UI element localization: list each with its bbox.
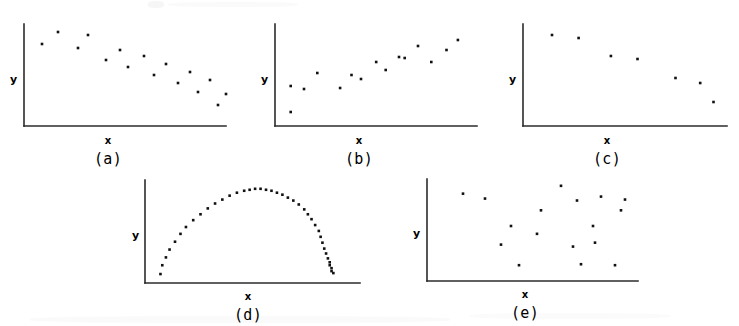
data-point bbox=[87, 34, 90, 37]
data-point bbox=[77, 47, 80, 50]
data-point bbox=[270, 189, 273, 192]
data-point bbox=[712, 101, 715, 104]
data-point bbox=[560, 185, 563, 188]
data-points bbox=[462, 185, 627, 267]
panel-a-x-axis-label: x bbox=[98, 136, 118, 146]
panel-a: y x (a) bbox=[0, 10, 240, 165]
data-point bbox=[292, 199, 295, 202]
data-point bbox=[41, 43, 44, 46]
data-point bbox=[360, 78, 363, 81]
data-point bbox=[318, 230, 321, 233]
panel-d-plot bbox=[130, 168, 380, 293]
data-point bbox=[174, 240, 177, 243]
data-point bbox=[281, 193, 284, 196]
data-point bbox=[580, 263, 583, 266]
panel-d-caption: (d) bbox=[218, 308, 278, 323]
data-point bbox=[540, 209, 543, 212]
data-point bbox=[536, 233, 539, 236]
data-point bbox=[577, 37, 580, 40]
data-point bbox=[417, 45, 420, 48]
scan-artifact bbox=[148, 1, 164, 8]
data-point bbox=[624, 198, 627, 201]
data-point bbox=[197, 91, 200, 94]
data-point bbox=[303, 208, 306, 211]
data-point bbox=[161, 264, 164, 267]
data-point bbox=[319, 236, 322, 239]
data-point bbox=[265, 188, 268, 191]
panel-c: y x (c) bbox=[499, 10, 739, 165]
data-point bbox=[576, 199, 579, 202]
panel-e-caption: (e) bbox=[495, 306, 555, 321]
panel-e-x-axis-label: x bbox=[515, 290, 535, 300]
panel-b-x-axis-label: x bbox=[349, 136, 369, 146]
data-point bbox=[206, 207, 209, 210]
data-point bbox=[510, 225, 513, 228]
data-point bbox=[330, 267, 333, 270]
data-point bbox=[189, 71, 192, 74]
data-point bbox=[236, 191, 239, 194]
data-point bbox=[314, 224, 317, 227]
panel-b-caption: (b) bbox=[329, 152, 389, 167]
data-point bbox=[165, 63, 168, 66]
data-point bbox=[168, 248, 171, 251]
data-point bbox=[310, 218, 313, 221]
data-point bbox=[289, 111, 292, 114]
data-point bbox=[500, 243, 503, 246]
data-point bbox=[484, 197, 487, 200]
data-point bbox=[165, 256, 168, 259]
data-point bbox=[119, 49, 122, 52]
data-point bbox=[307, 213, 310, 216]
data-point bbox=[430, 61, 433, 64]
data-point bbox=[350, 74, 353, 77]
data-point bbox=[518, 264, 521, 267]
data-point bbox=[384, 69, 387, 72]
data-point bbox=[332, 272, 335, 275]
data-point bbox=[375, 61, 378, 64]
data-point bbox=[192, 219, 195, 222]
data-point bbox=[325, 252, 328, 255]
data-point bbox=[57, 31, 60, 34]
panel-b-y-axis-label: y bbox=[261, 74, 268, 85]
data-point bbox=[594, 241, 597, 244]
data-point bbox=[636, 58, 639, 61]
data-points bbox=[289, 39, 459, 114]
data-point bbox=[185, 226, 188, 229]
data-point bbox=[398, 56, 401, 59]
data-point bbox=[259, 188, 262, 191]
panel-c-y-axis-label: y bbox=[509, 74, 516, 85]
data-points bbox=[41, 31, 228, 107]
data-point bbox=[276, 191, 279, 194]
panel-b: y x (b) bbox=[256, 10, 496, 165]
data-point bbox=[177, 82, 180, 85]
panel-a-plot bbox=[0, 10, 240, 140]
data-point bbox=[674, 77, 677, 80]
scan-artifact bbox=[168, 2, 298, 7]
data-points bbox=[551, 34, 715, 104]
panel-a-caption: (a) bbox=[78, 152, 138, 167]
data-point bbox=[303, 88, 306, 91]
panel-e: y x (e) bbox=[395, 168, 645, 326]
panel-d: y x (d) bbox=[130, 168, 380, 326]
data-point bbox=[297, 203, 300, 206]
panel-e-plot bbox=[395, 168, 645, 293]
data-point bbox=[445, 49, 448, 52]
data-points bbox=[159, 188, 335, 276]
data-point bbox=[179, 233, 182, 236]
data-point bbox=[217, 104, 220, 107]
data-point bbox=[153, 74, 156, 77]
panel-d-x-axis-label: x bbox=[238, 292, 258, 302]
data-point bbox=[105, 59, 108, 62]
data-point bbox=[327, 257, 330, 260]
data-point bbox=[620, 209, 623, 212]
data-point bbox=[287, 196, 290, 199]
data-point bbox=[339, 87, 342, 90]
data-point bbox=[614, 264, 617, 267]
data-point bbox=[316, 72, 319, 75]
data-point bbox=[225, 93, 228, 96]
data-point bbox=[572, 245, 575, 248]
data-point bbox=[457, 39, 460, 42]
scatterplot-figure: y x (a) y x (b) y x (c) y x (d) bbox=[0, 0, 739, 326]
data-point bbox=[328, 261, 331, 264]
data-point bbox=[610, 55, 613, 58]
data-point bbox=[592, 225, 595, 228]
